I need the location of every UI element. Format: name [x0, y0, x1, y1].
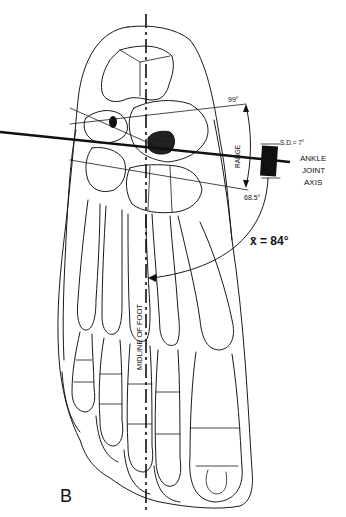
- calcaneus-bone: [84, 111, 127, 143]
- talus-bone: [101, 46, 173, 102]
- phalanges: [72, 332, 242, 502]
- sd-bar: [260, 145, 278, 176]
- cuboid-bone: [86, 148, 126, 192]
- range-max-line: [70, 104, 246, 124]
- panel-label: B: [60, 486, 72, 506]
- cuneiform-bones: [126, 165, 202, 213]
- axis-label-line-3: AXIS: [304, 178, 322, 187]
- range-label: RANGE: [234, 144, 241, 168]
- axis-label-line-1: ANKLE: [300, 154, 326, 163]
- mean-angle-arc: [152, 178, 268, 278]
- mean-angle-label: x̄ = 84°: [250, 234, 289, 248]
- sd-label: S.D.= 7°: [280, 139, 305, 146]
- midline-label: MIDLINE OF FOOT: [135, 304, 144, 370]
- ankle-joint-axis-line: [0, 132, 290, 162]
- foot-axis-diagram: 99° 68.5° RANGE S.D.= 7° ANKLE JOINT AXI…: [0, 0, 346, 517]
- range-arc: [246, 106, 251, 186]
- range-max-label: 99°: [228, 96, 239, 103]
- range-min-label: 68.5°: [244, 194, 261, 201]
- axis-label-line-2: JOINT: [302, 166, 325, 175]
